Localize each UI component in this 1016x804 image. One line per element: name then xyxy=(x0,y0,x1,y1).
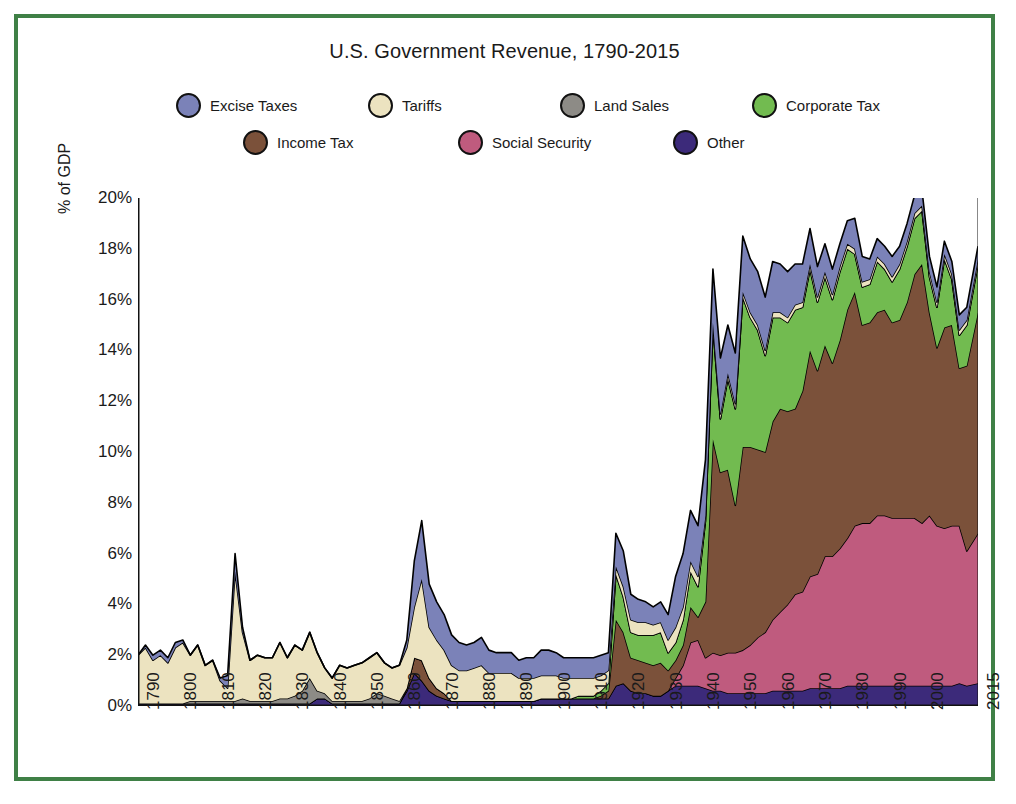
legend-row-2: Income TaxSocial SecurityOther xyxy=(58,130,1016,155)
legend-item[interactable]: Social Security xyxy=(458,130,673,155)
legend-item[interactable]: Excise Taxes xyxy=(176,93,368,118)
legend-swatch-icon xyxy=(176,93,201,118)
x-tick-label: 1970 xyxy=(816,672,836,710)
y-tick-label: 20% xyxy=(98,188,132,208)
x-tick-label: 1900 xyxy=(555,672,575,710)
x-tick-label: 1950 xyxy=(741,672,761,710)
legend-row-1: Excise TaxesTariffsLand SalesCorporate T… xyxy=(58,93,1016,118)
x-tick-label: 1800 xyxy=(181,672,201,710)
page-title: U.S. Government Revenue, 1790-2015 xyxy=(18,40,991,63)
legend-item[interactable]: Other xyxy=(673,130,888,155)
x-tick-label: 2000 xyxy=(928,672,948,710)
x-axis-ticks: 1790180018101820183018401850186018701880… xyxy=(138,710,978,790)
legend-swatch-icon xyxy=(458,130,483,155)
legend-label: Other xyxy=(707,134,745,151)
y-tick-label: 4% xyxy=(107,594,132,614)
legend-swatch-icon xyxy=(752,93,777,118)
x-tick-label: 1860 xyxy=(405,672,425,710)
y-tick-label: 12% xyxy=(98,391,132,411)
x-tick-label: 1930 xyxy=(667,672,687,710)
x-tick-label: 1830 xyxy=(293,672,313,710)
x-tick-label: 1920 xyxy=(629,672,649,710)
legend-label: Social Security xyxy=(492,134,591,151)
x-tick-label: 1910 xyxy=(592,672,612,710)
legend-label: Corporate Tax xyxy=(786,97,880,114)
chart-legend: Excise TaxesTariffsLand SalesCorporate T… xyxy=(18,93,991,155)
x-tick-label: 1880 xyxy=(480,672,500,710)
legend-item[interactable]: Income Tax xyxy=(243,130,458,155)
stacked-area-plot xyxy=(138,198,978,706)
y-tick-label: 10% xyxy=(98,442,132,462)
y-axis-label: % of GDP xyxy=(56,143,74,214)
chart-frame: U.S. Government Revenue, 1790-2015 Excis… xyxy=(14,14,995,781)
legend-label: Tariffs xyxy=(402,97,442,114)
x-tick-label: 1850 xyxy=(368,672,388,710)
x-tick-label: 1840 xyxy=(331,672,351,710)
legend-swatch-icon xyxy=(243,130,268,155)
legend-label: Income Tax xyxy=(277,134,353,151)
legend-item[interactable]: Tariffs xyxy=(368,93,560,118)
y-tick-label: 6% xyxy=(107,544,132,564)
x-tick-label: 1990 xyxy=(891,672,911,710)
legend-label: Excise Taxes xyxy=(210,97,297,114)
legend-label: Land Sales xyxy=(594,97,669,114)
x-tick-label: 2015 xyxy=(984,672,1004,710)
x-tick-label: 1870 xyxy=(443,672,463,710)
y-tick-label: 0% xyxy=(107,696,132,716)
x-tick-label: 1960 xyxy=(779,672,799,710)
legend-item[interactable]: Land Sales xyxy=(560,93,752,118)
legend-swatch-icon xyxy=(673,130,698,155)
x-tick-label: 1820 xyxy=(256,672,276,710)
y-tick-label: 18% xyxy=(98,239,132,259)
y-axis-ticks: 0%2%4%6%8%10%12%14%16%18%20% xyxy=(80,198,138,706)
legend-swatch-icon xyxy=(560,93,585,118)
y-tick-label: 2% xyxy=(107,645,132,665)
legend-swatch-icon xyxy=(368,93,393,118)
y-tick-label: 14% xyxy=(98,340,132,360)
x-tick-label: 1810 xyxy=(219,672,239,710)
x-tick-label: 1940 xyxy=(704,672,724,710)
x-tick-label: 1890 xyxy=(517,672,537,710)
x-tick-label: 1790 xyxy=(144,672,164,710)
x-tick-label: 1980 xyxy=(853,672,873,710)
y-tick-label: 16% xyxy=(98,290,132,310)
legend-item[interactable]: Corporate Tax xyxy=(752,93,944,118)
y-tick-label: 8% xyxy=(107,493,132,513)
